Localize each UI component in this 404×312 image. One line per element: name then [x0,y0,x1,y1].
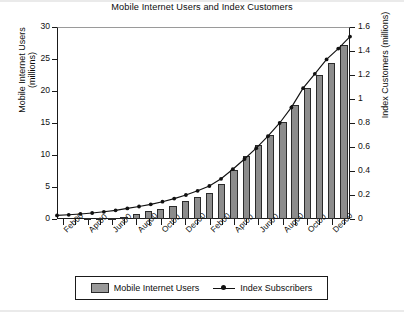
bar [255,145,262,219]
y-axis-right-tick-mark [350,195,355,196]
y-axis-left-tick-mark [52,123,57,124]
bar [120,217,127,219]
y-axis-right-tick-label: 0.4 [358,166,384,175]
bar [328,63,335,219]
y-axis-left-tick-mark [52,59,57,60]
y-axis-right-tick-mark [350,27,355,28]
y-axis-left-tick-label: 25 [24,54,50,63]
bar [182,201,189,219]
bar [340,45,347,219]
y-axis-left-tick-mark [52,27,57,28]
x-axis-tick-mark [112,219,113,225]
bar [230,170,237,219]
bar [96,218,103,220]
x-axis-tick-mark [136,219,137,225]
legend-item-index-subscribers: Index Subscribers [213,283,312,293]
bar [304,88,311,219]
bar [279,122,286,219]
bar-swatch-icon [91,283,109,293]
bar [291,105,298,219]
y-axis-right-tick-mark [350,75,355,76]
bar [243,156,250,219]
x-axis-tick-mark [161,219,162,225]
y-axis-right-tick-label: 0.8 [358,118,384,127]
y-axis-left-tick-label: 5 [24,182,50,191]
y-axis-right-tick-mark [350,51,355,52]
y-axis-left-tick-mark [52,187,57,188]
y-axis-left-tick-label: 20 [24,86,50,95]
y-axis-left-tick-label: 30 [24,22,50,31]
bar [218,184,225,219]
x-axis-tick-mark [332,219,333,225]
bar [206,193,213,219]
bar [108,218,115,220]
dot-glyph [221,285,226,290]
y-axis-right-tick-label: 0 [358,214,384,223]
bar [157,209,164,219]
y-axis-right-label-line1: Index Customers [380,50,390,118]
bar [316,75,323,219]
x-axis-tick-mark [258,219,259,225]
y-axis-right-tick-label: 0.6 [358,142,384,151]
y-axis-right-tick-label: 1 [358,94,384,103]
chart-legend: Mobile Internet Users Index Subscribers [75,276,328,300]
chart-figure: Mobile Internet Users and Index Customer… [0,0,404,312]
y-axis-right-tick-mark [350,147,355,148]
y-axis-right-tick-mark [350,123,355,124]
y-axis-left-tick-mark [52,219,57,220]
y-axis-right-tick-mark [350,99,355,100]
x-axis-tick-mark [283,219,284,225]
bar [145,211,152,219]
y-axis-left-tick-mark [52,91,57,92]
bar [194,197,201,219]
y-axis-left-tick-label: 15 [24,118,50,127]
y-axis-right-tick-label: 1.6 [358,22,384,31]
legend-item-mobile-internet-users: Mobile Internet Users [91,283,200,293]
x-axis-tick-mark [210,219,211,225]
bar [84,218,91,220]
bar [267,135,274,219]
bar [133,214,140,219]
y-axis-right-tick-label: 1.2 [358,70,384,79]
x-axis-tick-mark [234,219,235,225]
y-axis-right-tick-label: 0.2 [358,190,384,199]
y-axis-left-label-line1: Mobile Internet Users [17,27,27,113]
y-axis-left-tick-mark [52,155,57,156]
y-axis-right-tick-label: 1.4 [358,46,384,55]
y-axis-left-tick-label: 10 [24,150,50,159]
legend-label-mobile-internet-users: Mobile Internet Users [114,283,200,293]
y-axis-right-tick-mark [350,171,355,172]
line-dot-icon [213,284,235,292]
chart-title: Mobile Internet Users and Index Customer… [0,2,404,12]
y-axis-left-tick-label: 0 [24,214,50,223]
legend-label-index-subscribers: Index Subscribers [240,283,312,293]
bar [169,206,176,219]
